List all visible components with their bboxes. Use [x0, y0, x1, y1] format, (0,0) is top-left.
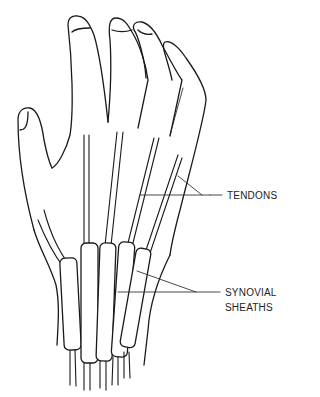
- tendons-label: TENDONS: [227, 189, 277, 202]
- synovial-label-line2: SHEATHS: [225, 301, 273, 314]
- synovial-sheaths: [60, 242, 152, 363]
- synovial-label-line1: SYNOVIAL: [225, 286, 277, 299]
